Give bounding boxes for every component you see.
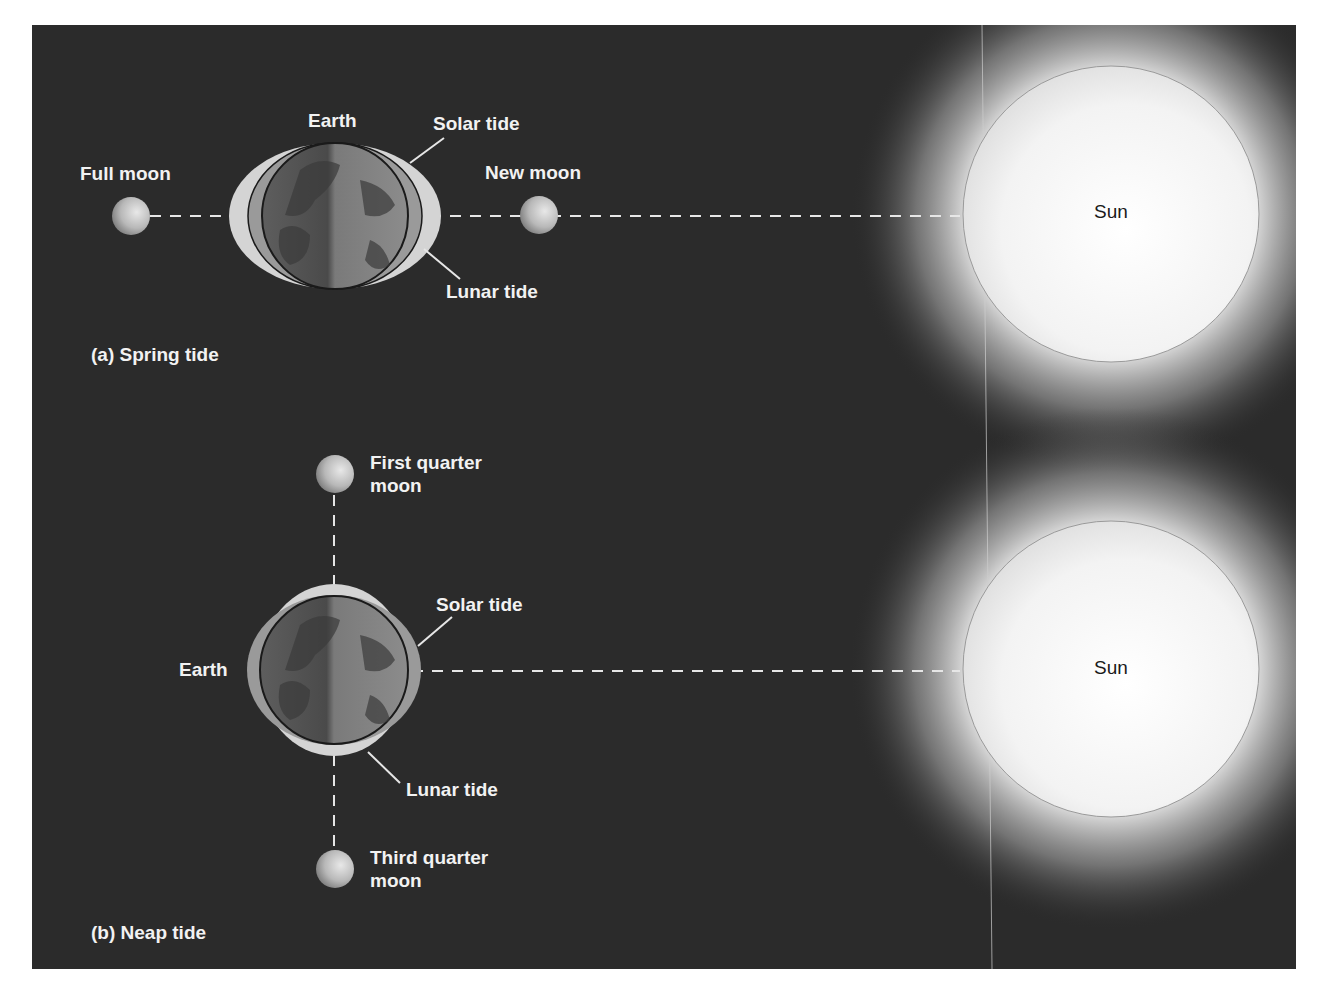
label-new-moon: New moon xyxy=(485,161,581,184)
label-lunar-tide: Lunar tide xyxy=(406,778,498,801)
label-full-moon: Full moon xyxy=(80,162,171,185)
label-earth: Earth xyxy=(179,658,228,681)
lunar-tide-pointer xyxy=(368,752,400,783)
label-first-quarter-line1: First quarter xyxy=(370,451,482,474)
label-first-quarter-line2: moon xyxy=(370,474,422,497)
first-quarter-moon xyxy=(316,455,354,493)
label-third-quarter-line1: Third quarter xyxy=(370,846,488,869)
label-earth: Earth xyxy=(308,109,357,132)
caption-spring-tide: (a) Spring tide xyxy=(91,343,219,366)
new-moon xyxy=(520,196,558,234)
label-lunar-tide: Lunar tide xyxy=(446,280,538,303)
label-sun: Sun xyxy=(1094,656,1128,679)
label-solar-tide: Solar tide xyxy=(436,593,523,616)
diagram-panel: Earth Solar tide Full moon New moon Luna… xyxy=(32,25,1296,969)
caption-neap-tide: (b) Neap tide xyxy=(91,921,206,944)
label-third-quarter-line2: moon xyxy=(370,869,422,892)
lunar-tide-pointer xyxy=(424,249,460,279)
label-solar-tide: Solar tide xyxy=(433,112,520,135)
label-sun: Sun xyxy=(1094,200,1128,223)
solar-tide-pointer xyxy=(410,138,444,163)
third-quarter-moon xyxy=(316,850,354,888)
full-moon xyxy=(112,197,150,235)
solar-tide-pointer xyxy=(418,617,452,646)
tides-diagram xyxy=(32,25,1296,969)
